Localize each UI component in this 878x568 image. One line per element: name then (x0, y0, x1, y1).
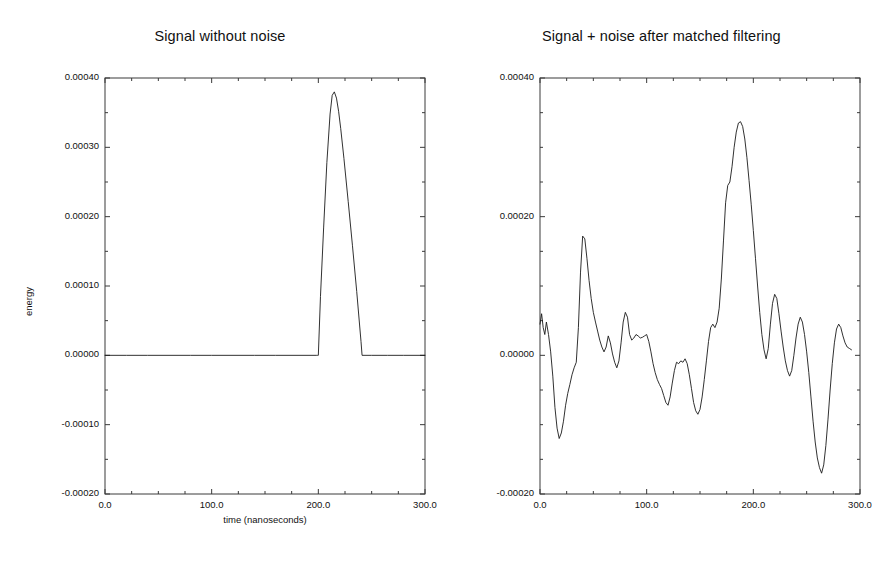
y-tick-label: -0.00010 (43, 418, 99, 429)
x-tick-label: 100.0 (617, 499, 677, 510)
y-tick-label: 0.00020 (478, 210, 534, 221)
x-tick-label: 300.0 (830, 499, 878, 510)
x-tick-label: 100.0 (182, 499, 242, 510)
y-tick-label: -0.00020 (43, 487, 99, 498)
x-tick-label: 0.0 (75, 499, 135, 510)
x-tick-label: 200.0 (723, 499, 783, 510)
y-tick-label: 0.00000 (43, 348, 99, 359)
y-tick-label: 0.00040 (43, 71, 99, 82)
plot-panel-signal-without-noise: Signal without noise energy time (nanose… (0, 0, 440, 568)
data-series-line (105, 92, 425, 355)
y-tick-label: 0.00010 (43, 279, 99, 290)
y-tick-label: -0.00020 (478, 487, 534, 498)
x-tick-label: 200.0 (288, 499, 348, 510)
plot-panel-signal-noise-matched: Signal + noise after matched filtering e… (438, 0, 878, 568)
plot-area-right (438, 0, 878, 568)
y-tick-label: 0.00020 (43, 210, 99, 221)
x-tick-label: 0.0 (510, 499, 570, 510)
figure-canvas: Signal without noise energy time (nanose… (0, 0, 878, 568)
y-tick-label: 0.00030 (43, 140, 99, 151)
y-tick-label: 0.00040 (478, 71, 534, 82)
data-series-line (540, 122, 851, 474)
y-tick-label: 0.00000 (478, 348, 534, 359)
